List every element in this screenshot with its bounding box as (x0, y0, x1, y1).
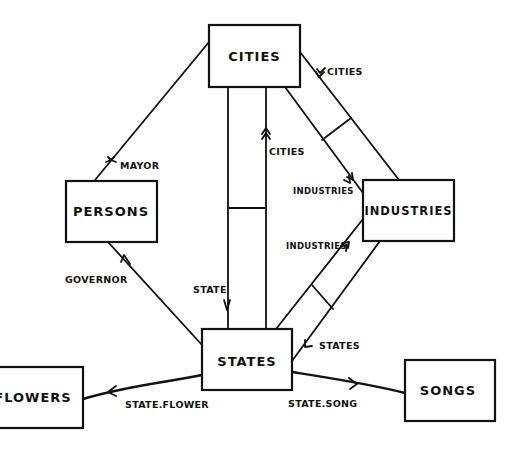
rel-label-state-song: STATE.SONG (288, 398, 357, 409)
arrow-head-icon (121, 255, 130, 264)
entity-songs: SONGS (405, 360, 495, 421)
rel-label-cities-from-states: CITIES (269, 146, 305, 157)
rel-label-state-flower: STATE.FLOWER (125, 399, 209, 410)
rel-label-states: STATES (319, 340, 360, 351)
entity-industries: INDUSTRIES (363, 180, 454, 241)
rel-label-mayor: MAYOR (120, 160, 160, 171)
entity-label: CITIES (228, 49, 280, 64)
arrow-head-icon (224, 300, 230, 310)
entity-cities: CITIES (209, 25, 300, 87)
rel-label-governor: GOVERNOR (65, 274, 128, 285)
entity-states: STATES (202, 329, 292, 390)
edge-state-flower (83, 375, 202, 399)
rel-label-state: STATE (193, 284, 227, 295)
entity-label: STATES (217, 354, 276, 369)
entity-persons: PERSONS (66, 181, 157, 242)
edge-cities-states (224, 87, 270, 329)
rel-label-industries-from-cities: INDUSTRIES (293, 186, 354, 196)
entity-label: FLOWERS (0, 390, 72, 405)
entity-label: INDUSTRIES (364, 204, 452, 218)
entity-label: SONGS (420, 383, 476, 398)
rel-label-cities-from-industries: CITIES (327, 66, 363, 77)
entity-flowers: FLOWERS (0, 367, 83, 428)
arrow-head-icon (349, 378, 357, 389)
edge-governor (108, 242, 202, 345)
er-diagram: CITIES PERSONS INDUSTRIES STATES FLOWERS… (0, 0, 519, 452)
edge-state-song (292, 372, 405, 393)
entity-label: PERSONS (73, 204, 149, 219)
rel-label-industries-from-states: INDUSTRIES (286, 241, 347, 251)
